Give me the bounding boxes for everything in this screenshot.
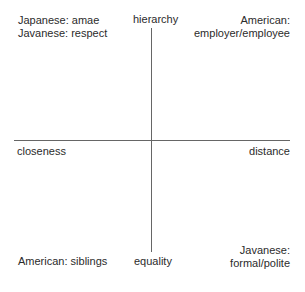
horizontal-axis-line bbox=[14, 140, 290, 141]
axis-label-equality: equality bbox=[134, 255, 172, 268]
quadrant-label-top-left: Japanese: amae Javanese: respect bbox=[18, 14, 107, 40]
quadrant-label-line: American: bbox=[194, 14, 290, 27]
quadrant-diagram: hierarchy equality closeness distance Ja… bbox=[0, 0, 305, 292]
quadrant-label-line: Japanese: amae bbox=[18, 14, 107, 27]
axis-label-closeness: closeness bbox=[17, 145, 66, 158]
quadrant-label-line: formal/polite bbox=[230, 257, 290, 270]
quadrant-label-line: Javanese: bbox=[230, 244, 290, 257]
vertical-axis-line bbox=[151, 28, 152, 252]
quadrant-label-line: American: siblings bbox=[18, 255, 107, 268]
quadrant-label-top-right: American: employer/employee bbox=[194, 14, 290, 40]
quadrant-label-bottom-left: American: siblings bbox=[18, 255, 107, 268]
quadrant-label-bottom-right: Javanese: formal/polite bbox=[230, 244, 290, 270]
axis-label-distance: distance bbox=[249, 145, 290, 158]
quadrant-label-line: Javanese: respect bbox=[18, 27, 107, 40]
quadrant-label-line: employer/employee bbox=[194, 27, 290, 40]
axis-label-hierarchy: hierarchy bbox=[133, 13, 178, 26]
